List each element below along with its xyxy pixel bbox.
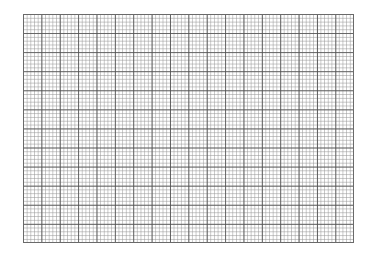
page [0, 0, 375, 263]
graph-paper-grid [23, 14, 354, 243]
